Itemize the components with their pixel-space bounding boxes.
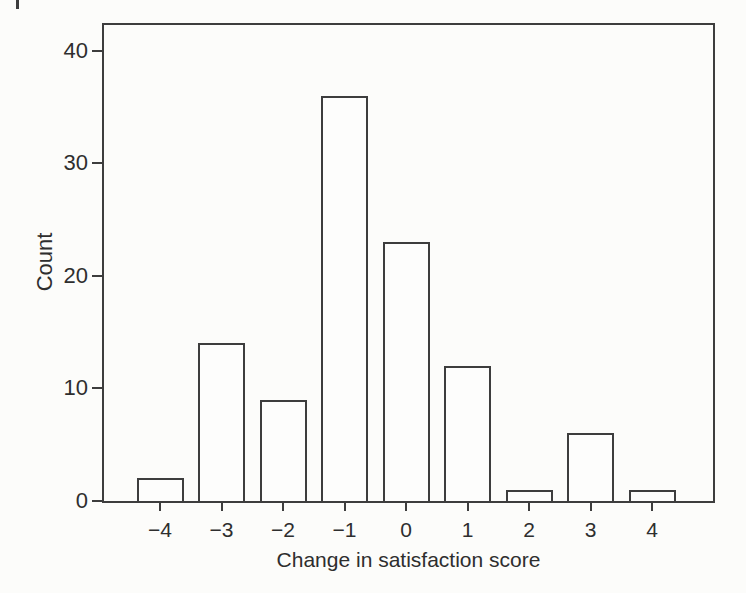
y-tick-label: 20: [28, 262, 88, 290]
y-tick-label: 40: [28, 37, 88, 65]
x-axis-tick: [159, 501, 161, 511]
y-axis-tick: [92, 162, 104, 164]
x-axis-tick: [651, 501, 653, 511]
x-tick-label: 4: [621, 517, 683, 543]
x-tick-label: −1: [314, 517, 376, 543]
x-tick-label: 2: [498, 517, 560, 543]
x-axis-tick: [282, 501, 284, 511]
y-tick-label: 10: [28, 374, 88, 402]
y-tick-label: 30: [28, 149, 88, 177]
histogram-figure: Count Change in satisfaction score 01020…: [0, 0, 746, 593]
x-axis-tick: [344, 501, 346, 511]
histogram-bar: [321, 96, 368, 501]
histogram-bar: [444, 366, 491, 501]
x-axis-tick: [221, 501, 223, 511]
histogram-bar: [383, 242, 430, 501]
page-edge-artifact: [16, 0, 19, 9]
histogram-bar: [260, 400, 307, 501]
x-axis-tick: [405, 501, 407, 511]
x-tick-label: −4: [129, 517, 191, 543]
histogram-bar: [137, 478, 184, 501]
x-tick-label: 0: [375, 517, 437, 543]
histogram-bar: [198, 343, 245, 501]
x-tick-label: −2: [252, 517, 314, 543]
x-axis-title: Change in satisfaction score: [104, 548, 713, 572]
y-axis-tick: [92, 500, 104, 502]
x-axis-tick: [467, 501, 469, 511]
x-tick-label: 1: [437, 517, 499, 543]
histogram-bar: [506, 490, 553, 501]
y-axis-tick: [92, 387, 104, 389]
x-axis-tick: [590, 501, 592, 511]
x-tick-label: −3: [191, 517, 253, 543]
x-tick-label: 3: [560, 517, 622, 543]
y-tick-label: 0: [28, 487, 88, 515]
y-axis-tick: [92, 275, 104, 277]
histogram-bar: [567, 433, 614, 501]
x-axis-tick: [528, 501, 530, 511]
y-axis-tick: [92, 50, 104, 52]
histogram-bar: [629, 490, 676, 501]
